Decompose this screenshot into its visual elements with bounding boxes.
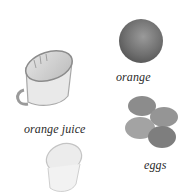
bowl-icon [40, 140, 84, 194]
orange-label: orange [116, 70, 151, 85]
eggs-label: eggs [144, 158, 166, 173]
orange-juice-image [14, 46, 76, 110]
orange-juice-label: orange juice [24, 122, 86, 137]
orange-icon [116, 16, 166, 66]
eggs-icon [124, 96, 180, 152]
bowl-image [40, 140, 84, 194]
orange-image [116, 16, 166, 66]
measuring-cup-icon [14, 46, 76, 110]
eggs-image [124, 96, 180, 152]
